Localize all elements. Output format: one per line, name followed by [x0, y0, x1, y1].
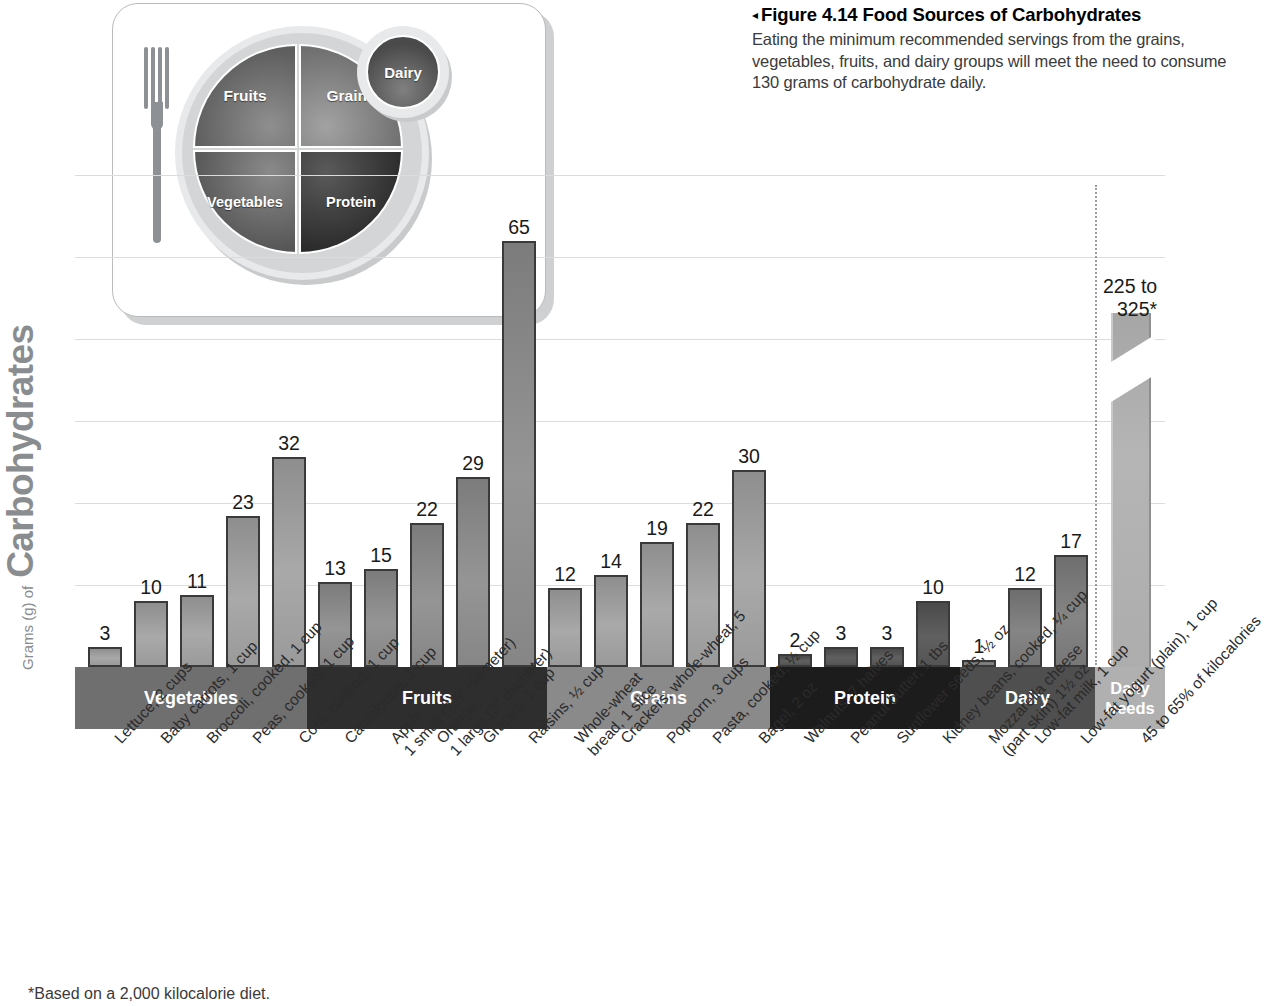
y-axis-units-label: Grams (g) of — [19, 586, 36, 670]
bar-value-label: 10 — [908, 576, 958, 599]
bar-value-label: 13 — [310, 557, 360, 580]
x-axis-labels: Lettuce, 2 cupsBaby carrots, 1 cupBrocco… — [0, 729, 1237, 969]
bar-value-label: 19 — [632, 517, 682, 540]
bar-value-label: 12 — [1000, 563, 1050, 586]
bar-value-label: 32 — [264, 432, 314, 455]
bar-value-label: 22 — [678, 498, 728, 521]
plate-label-fruits: Fruits — [223, 87, 266, 105]
bar-value-label: 30 — [724, 445, 774, 468]
bar — [134, 601, 168, 667]
bar-value-label: 14 — [586, 550, 636, 573]
chart-plot-area: 310112332131522296512141922302331011217 … — [75, 185, 1165, 667]
bar — [88, 647, 122, 667]
caption-arrow-icon: ◂ — [752, 8, 758, 22]
figure-caption: ◂Figure 4.14 Food Sources of Carbohydrat… — [752, 4, 1232, 94]
daily-needs-separator — [1095, 185, 1097, 665]
bar-value-daily-needs: 225 to 325* — [1103, 275, 1157, 321]
bar-value-label: 17 — [1046, 530, 1096, 553]
gridline — [75, 421, 1165, 422]
bar-value-label: 12 — [540, 563, 590, 586]
chart-footnote: *Based on a 2,000 kilocalorie diet. — [28, 985, 270, 1003]
bar — [594, 575, 628, 667]
bar — [180, 595, 214, 667]
bar — [502, 241, 536, 667]
bar — [640, 542, 674, 667]
bar-value-label: 3 — [80, 622, 130, 645]
bar-value-label: 29 — [448, 452, 498, 475]
y-axis-main-label: Carbohydrates — [0, 324, 42, 577]
bar-value-label: 11 — [172, 570, 222, 593]
bar-value-label: 10 — [126, 576, 176, 599]
bar-value-label: 3 — [862, 622, 912, 645]
plate-section-dairy: Dairy — [366, 35, 440, 109]
bar-value-label: 22 — [402, 498, 452, 521]
dairy-glass: Dairy — [357, 26, 449, 118]
bar-value-label: 23 — [218, 491, 268, 514]
bar-value-label: 15 — [356, 544, 406, 567]
gridline — [75, 175, 1165, 176]
bar-value-label: 3 — [816, 622, 866, 645]
gridline — [75, 339, 1165, 340]
plate-section-fruits: Fruits — [193, 44, 297, 148]
figure-description: Eating the minimum recommended servings … — [752, 29, 1232, 94]
bar — [732, 470, 766, 667]
figure-title-text: Figure 4.14 Food Sources of Carbohydrate… — [761, 4, 1141, 25]
bar — [824, 647, 858, 667]
y-axis-title: Grams (g) of Carbohydrates — [0, 150, 60, 670]
gridline — [75, 257, 1165, 258]
plate-label-dairy: Dairy — [384, 64, 422, 81]
bar-value-label: 65 — [494, 216, 544, 239]
figure-title: ◂Figure 4.14 Food Sources of Carbohydrat… — [752, 4, 1232, 26]
